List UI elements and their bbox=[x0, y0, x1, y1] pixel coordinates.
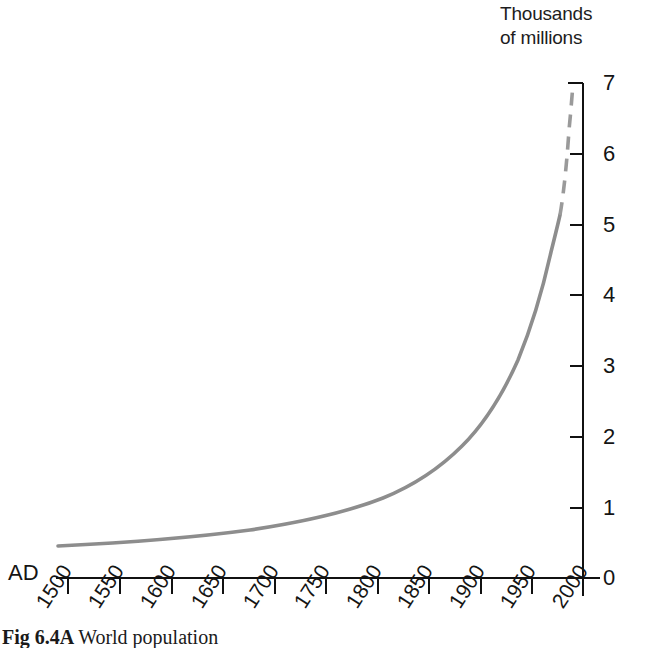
x-axis-origin-label: AD bbox=[8, 562, 39, 584]
y-tick-label-4: 4 bbox=[603, 284, 633, 306]
y-tick-label-2: 2 bbox=[603, 426, 633, 448]
population-curve-solid bbox=[58, 215, 560, 546]
figure-caption-text: World population bbox=[78, 626, 218, 648]
y-tick-label-3: 3 bbox=[603, 355, 633, 377]
y-tick-label-6: 6 bbox=[603, 143, 633, 165]
figure-caption-number: Fig 6.4A bbox=[2, 626, 73, 648]
y-tick-label-5: 5 bbox=[603, 214, 633, 236]
y-tick-label-1: 1 bbox=[603, 497, 633, 519]
y-tick-label-7: 7 bbox=[603, 72, 633, 94]
y-tick-label-0: 0 bbox=[603, 567, 633, 589]
figure-caption: Fig 6.4A World population bbox=[2, 626, 645, 648]
population-curve-dashed bbox=[560, 84, 573, 215]
